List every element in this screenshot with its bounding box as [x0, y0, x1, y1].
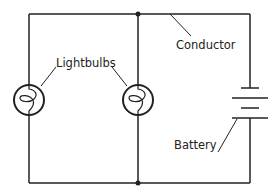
label-battery: Battery: [174, 138, 217, 152]
battery-icon: [232, 88, 268, 118]
label-conductor: Conductor: [176, 38, 236, 52]
leader-line-battery: [218, 119, 237, 152]
lightbulb-icon-left: [14, 85, 44, 115]
circuit-diagram: Lightbulbs Conductor Battery: [0, 0, 277, 194]
junction-dot-top: [136, 12, 141, 17]
leader-line-conductor: [170, 14, 191, 36]
lightbulb-icon-middle: [123, 85, 153, 115]
junction-dot-bottom: [136, 181, 141, 186]
leader-line-lightbulbs-left: [41, 67, 56, 86]
label-lightbulbs: Lightbulbs: [56, 56, 116, 70]
